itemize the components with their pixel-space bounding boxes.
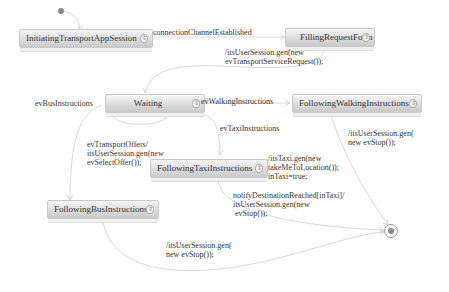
state-expand-icon[interactable]: ⇕ — [362, 33, 370, 42]
transition-label-taxi-to-final[interactable]: notifyDestinationReached[inTaxi]/ itsUse… — [233, 191, 344, 218]
transition-label-bus-to-final[interactable]: /itsUserSession.gen( new evStop()); — [166, 241, 232, 259]
state-following-bus-instructions[interactable]: FollowingBusInstructions ⇕ — [47, 200, 159, 219]
transition-label-transport-offers[interactable]: evTransportOffers/ itsUserSession.gen(ne… — [87, 140, 164, 167]
state-label: InitiatingTransportAppSession — [26, 30, 137, 47]
transition-label-walking[interactable]: evWalkingInstructions — [201, 97, 273, 106]
state-filling-request-form[interactable]: FillingRequestForm ⇕ — [285, 28, 375, 47]
transition-label-walking-to-final[interactable]: /itsUserSession.gen( new evStop()); — [348, 129, 414, 147]
initial-state-dot — [58, 8, 64, 14]
state-expand-icon[interactable]: ⇕ — [192, 99, 200, 108]
edge-waiting-to-taxi — [195, 111, 220, 155]
final-state — [384, 224, 398, 238]
transition-label-connection[interactable]: connectionChannelEstablished — [153, 28, 252, 37]
transition-label-bus[interactable]: evBusInstructions — [35, 99, 93, 108]
edge-waiting-self — [114, 113, 166, 124]
state-expand-icon[interactable]: ⇕ — [409, 99, 417, 108]
edge-initial-to-initiating — [62, 11, 80, 30]
state-diagram-canvas: InitiatingTransportAppSession ⇕ FillingR… — [0, 0, 449, 292]
transition-label-taxi[interactable]: evTaxiInstructions — [220, 124, 279, 133]
state-initiating-transport-app-session[interactable]: InitiatingTransportAppSession ⇕ — [19, 29, 153, 48]
transition-label-taxi-entry-action[interactable]: /itsTaxi.gen(new takeMeToLocation()); in… — [268, 154, 339, 181]
state-label: Waiting — [106, 95, 190, 112]
edge-bus-to-final — [102, 217, 384, 271]
state-label: FollowingWalkingInstructions — [299, 95, 409, 112]
state-expand-icon[interactable]: ⇕ — [146, 205, 154, 214]
state-expand-icon[interactable]: ⇕ — [140, 34, 148, 43]
transition-label-filling-to-waiting[interactable]: /itsUserSession.gen(new evTransportServi… — [225, 48, 323, 66]
state-expand-icon[interactable]: ⇕ — [255, 164, 263, 173]
state-waiting[interactable]: Waiting ⇕ — [105, 94, 205, 113]
state-label: FollowingBusInstructions — [54, 201, 148, 218]
final-state-core — [388, 228, 394, 234]
state-following-taxi-instructions[interactable]: FollowingTaxiInstructions ⇕ — [150, 159, 268, 178]
state-following-walking-instructions[interactable]: FollowingWalkingInstructions ⇕ — [292, 94, 422, 113]
state-label: FollowingTaxiInstructions — [157, 160, 252, 177]
